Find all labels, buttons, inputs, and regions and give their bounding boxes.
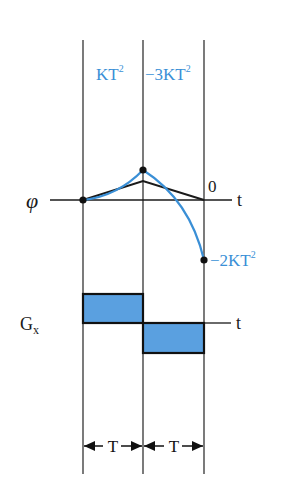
label-minus-3kt2: −3KT2 — [145, 63, 191, 84]
diagram-canvas: KT2 −3KT2 φ t 0 −2KT2 t Gx T T — [0, 0, 284, 501]
phase-label: φ — [26, 188, 38, 213]
interval-marker-2: T — [144, 437, 203, 456]
gradient-t-label: t — [236, 313, 241, 333]
svg-text:T: T — [108, 437, 119, 456]
zero-label: 0 — [208, 177, 217, 196]
gradient-lobe-positive — [83, 294, 143, 323]
end-value-label: −2KT2 — [210, 249, 256, 270]
phase-t-label: t — [237, 190, 242, 210]
phase-point-end — [200, 256, 207, 263]
svg-text:T: T — [169, 437, 180, 456]
gradient-label: Gx — [20, 314, 39, 337]
phase-point-peak — [139, 166, 146, 173]
label-kt2: KT2 — [96, 63, 124, 84]
gradient-lobe-negative — [143, 323, 204, 353]
interval-marker-1: T — [84, 437, 142, 456]
phase-point-start — [79, 196, 86, 203]
